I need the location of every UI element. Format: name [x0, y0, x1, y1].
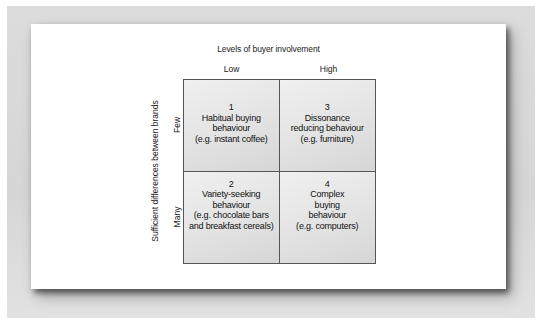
quadrant-text: (e.g. computers)	[283, 221, 373, 232]
column-label-low: Low	[183, 64, 280, 74]
row-label-few: Few	[172, 95, 182, 155]
quadrant-number: 4	[283, 179, 373, 190]
quadrant-grid: 1 Habitual buying behaviour (e.g. instan…	[183, 79, 376, 264]
quadrant-text: (e.g. furniture)	[283, 134, 373, 145]
quadrant-text: Complex	[283, 189, 373, 200]
quadrant-number: 1	[187, 102, 276, 113]
quadrant-number: 2	[187, 179, 276, 190]
quadrant-dissonance-reducing: 3 Dissonance reducing behaviour (e.g. fu…	[280, 80, 376, 172]
quadrant-text: behaviour	[283, 210, 373, 221]
quadrant-text: reducing behaviour	[283, 123, 373, 134]
quadrant-text: Dissonance	[283, 113, 373, 124]
diagram-card: Levels of buyer involvement Low High Suf…	[31, 24, 506, 289]
column-label-high: High	[280, 64, 377, 74]
quadrant-text: and breakfast cereals)	[187, 221, 276, 232]
quadrant-text: Habitual buying	[187, 113, 276, 124]
quadrant-text: buying	[283, 200, 373, 211]
quadrant-text: behaviour	[187, 123, 276, 134]
quadrant-complex-buying: 4 Complex buying behaviour (e.g. compute…	[280, 172, 376, 264]
quadrant-habitual-buying: 1 Habitual buying behaviour (e.g. instan…	[184, 80, 280, 172]
quadrant-text: behaviour	[187, 200, 276, 211]
quadrant-text: (e.g. instant coffee)	[187, 134, 276, 145]
row-label-many: Many	[172, 187, 182, 247]
quadrant-number: 3	[283, 102, 373, 113]
quadrant-text: Variety-seeking	[187, 189, 276, 200]
quadrant-text: (e.g. chocolate bars	[187, 210, 276, 221]
quadrant-variety-seeking: 2 Variety-seeking behaviour (e.g. chocol…	[184, 172, 280, 264]
row-axis-label: Sufficient differences between brands	[150, 91, 160, 251]
diagram-title: Levels of buyer involvement	[31, 44, 506, 54]
